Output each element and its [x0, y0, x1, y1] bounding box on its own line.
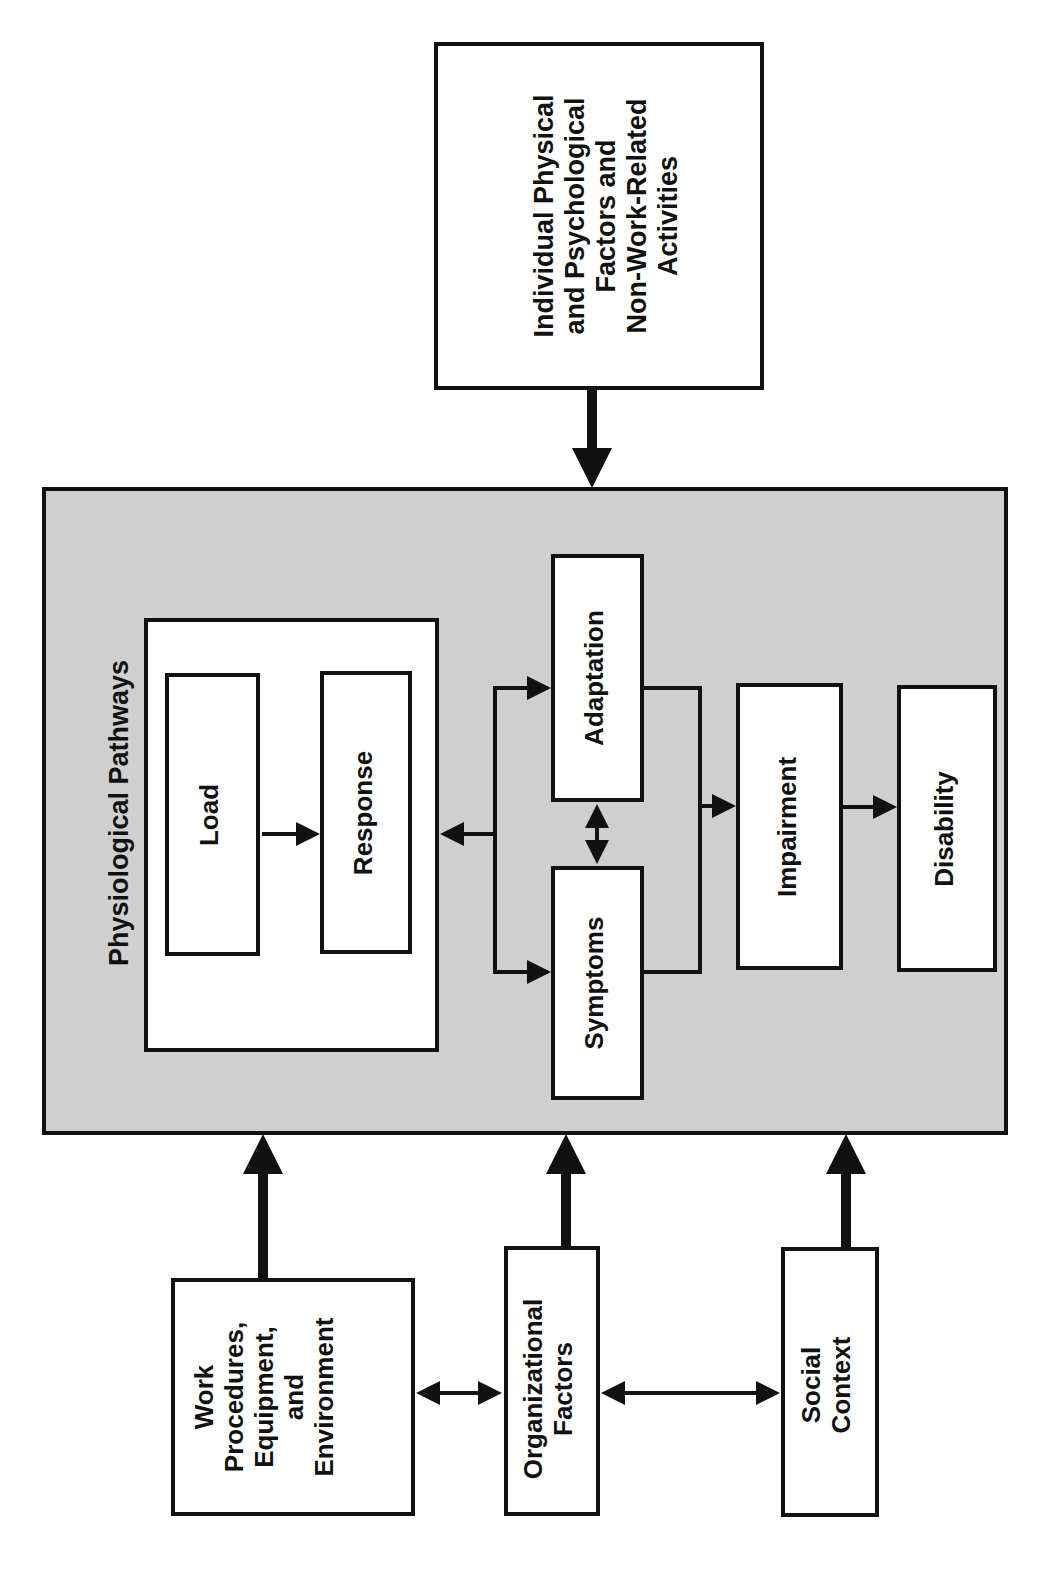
- symptoms-label: Symptoms: [580, 913, 614, 1053]
- impairment-label: Impairment: [773, 755, 807, 900]
- load-label: Load: [195, 765, 229, 865]
- response-label: Response: [349, 743, 383, 883]
- social-context-label: Social Context: [797, 1320, 863, 1450]
- organizational-factors-label: Organizational Factors: [519, 1284, 585, 1494]
- adaptation-label: Adaptation: [580, 608, 614, 748]
- individual-factors-label: Individual Physical and Psychological Fa…: [529, 46, 669, 386]
- work-procedures-label: Work Procedures, Equipment, and Environm…: [190, 1285, 396, 1509]
- disability-label: Disability: [930, 759, 964, 899]
- physiological-pathways-title: Physiological Pathways: [104, 623, 140, 1003]
